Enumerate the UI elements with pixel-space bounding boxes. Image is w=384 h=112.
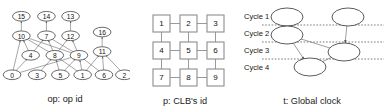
op-node-label: 1: [81, 72, 85, 79]
op-node-label: 8: [53, 52, 57, 59]
clb-cell-label: 4: [159, 46, 164, 55]
schedule-node: [294, 58, 326, 76]
schedule-node: [271, 8, 303, 26]
op-node: 8: [46, 50, 64, 60]
op-graph-panel: 151413107121648911035162 op: op id: [0, 0, 130, 112]
op-node-label: 12: [67, 33, 75, 40]
op-node-label: 10: [18, 33, 26, 40]
op-node: 9: [70, 50, 88, 60]
op-node-label: 13: [67, 13, 75, 20]
op-node: 5: [52, 70, 70, 80]
clb-cell-label: 9: [213, 73, 218, 82]
clb-cell-label: 2: [186, 19, 191, 28]
op-node: 10: [13, 31, 31, 41]
schedule-node: [332, 8, 364, 26]
clb-cell-label: 6: [213, 46, 218, 55]
op-node-label: 7: [45, 33, 49, 40]
cycle-label: Cycle 4: [244, 63, 269, 72]
clb-grid-caption: p: CLB's id: [130, 96, 240, 106]
op-node: 3: [28, 70, 46, 80]
op-node: 2: [116, 70, 130, 80]
op-node-label: 5: [58, 72, 62, 79]
clb-cell-label: 3: [213, 19, 218, 28]
op-node: 15: [13, 11, 31, 21]
op-graph-caption: op: op id: [0, 94, 130, 104]
op-node-label: 4: [29, 52, 33, 59]
op-graph-svg: 151413107121648911035162: [0, 0, 130, 92]
clb-cell-label: 5: [186, 46, 191, 55]
three-panel-figure: 151413107121648911035162 op: op id 12345…: [0, 0, 384, 112]
op-node-label: 11: [99, 48, 106, 55]
cycle-label: Cycle 3: [244, 46, 269, 55]
op-node-label: 9: [77, 52, 81, 59]
schedule-node: [271, 26, 303, 44]
clb-grid-panel: 123456789 p: CLB's id: [130, 0, 240, 112]
op-node-label: 6: [102, 72, 106, 79]
clb-grid-cells: 123456789: [153, 15, 224, 86]
op-node-label: 0: [10, 72, 14, 79]
clb-cell-label: 8: [186, 73, 191, 82]
op-node-label: 2: [123, 72, 127, 79]
op-node: 13: [62, 11, 80, 21]
schedule-node: [328, 43, 360, 61]
op-node-label: 3: [35, 72, 39, 79]
global-clock-panel: Cycle 1Cycle 2Cycle 3Cycle 4 t: Global c…: [240, 0, 384, 112]
op-node: 14: [38, 11, 56, 21]
op-node: 11: [93, 47, 111, 57]
op-node: 12: [62, 31, 80, 41]
op-graph-nodes: 151413107121648911035162: [3, 11, 130, 79]
clb-grid-svg: 123456789: [130, 0, 240, 90]
op-node: 4: [22, 50, 40, 60]
op-node-label: 14: [43, 13, 51, 20]
op-node-label: 16: [98, 29, 106, 36]
op-node: 7: [38, 31, 56, 41]
op-node-label: 15: [18, 13, 26, 20]
op-node: 1: [74, 70, 92, 80]
clb-cell-label: 1: [159, 19, 164, 28]
global-clock-svg: Cycle 1Cycle 2Cycle 3Cycle 4: [240, 0, 384, 90]
op-node: 0: [3, 70, 21, 80]
op-node: 16: [93, 27, 111, 37]
cycle-label: Cycle 2: [244, 29, 269, 38]
global-clock-caption: t: Global clock: [240, 96, 384, 106]
clb-cell-label: 7: [159, 73, 164, 82]
cycle-label: Cycle 1: [244, 12, 269, 21]
op-node: 6: [95, 70, 113, 80]
